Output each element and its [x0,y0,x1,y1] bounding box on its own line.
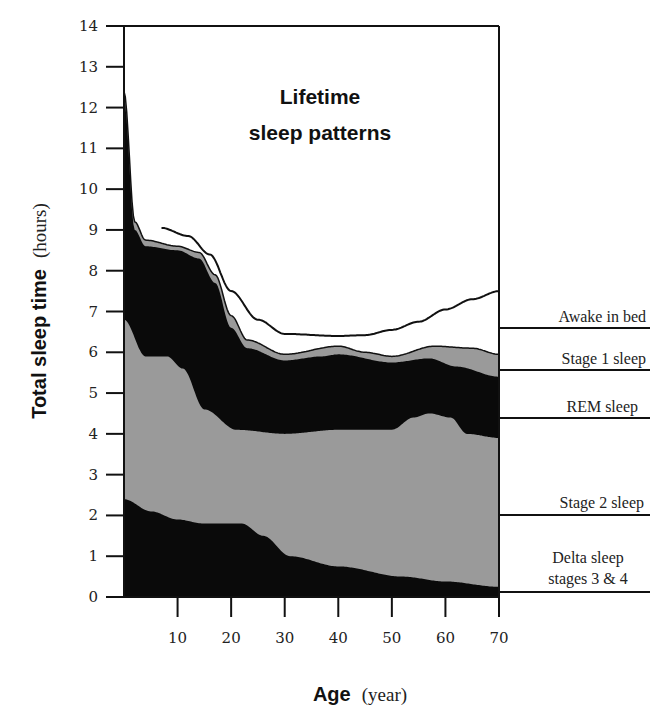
y-tick-label: 13 [79,58,98,76]
y-axis-title: Total sleep time (hours) [28,203,51,419]
y-tick-label: 2 [88,506,98,524]
label-delta-line1: Delta sleep [552,549,624,567]
y-tick-label: 12 [79,99,98,117]
y-tick-label: 11 [79,139,98,157]
x-tick-label: 10 [168,629,187,647]
x-tick-label: 30 [275,629,294,647]
x-axis-title: Age (year) [313,683,407,706]
x-tick-label: 60 [436,629,455,647]
sleep-chart: Lifetime sleep patterns 0123456789101112… [0,0,662,723]
y-tick-label: 4 [88,425,98,443]
chart-title-line2: sleep patterns [249,121,391,144]
y-tick-label: 0 [88,588,98,606]
y-tick-label: 10 [79,180,98,198]
y-tick-label: 1 [88,547,98,565]
y-tick-label: 7 [88,303,98,321]
y-axis-unit: (hours) [29,203,51,258]
x-tick-label: 20 [222,629,241,647]
y-tick-label: 9 [88,221,98,239]
plot-area [124,91,499,597]
y-tick-label: 14 [79,17,98,35]
y-axis-label: Total sleep time [28,269,50,419]
y-tick-label: 3 [88,466,98,484]
x-axis-label: Age [313,683,351,705]
chart-title-line1: Lifetime [280,85,361,108]
x-axis-unit: (year) [362,684,407,706]
x-tick-label: 70 [489,629,508,647]
y-tick-label: 5 [88,384,98,402]
label-stage-1: Stage 1 sleep [562,350,646,368]
label-awake-in-bed: Awake in bed [559,308,646,325]
x-tick-label: 40 [329,629,348,647]
series-legend: Awake in bed Stage 1 sleep REM sleep Sta… [500,308,650,592]
x-tick-label: 50 [382,629,401,647]
label-stage-2: Stage 2 sleep [560,494,644,512]
y-tick-label: 8 [88,262,98,280]
label-delta-line2: stages 3 & 4 [548,570,628,588]
y-tick-label: 6 [88,343,98,361]
label-rem: REM sleep [566,398,638,416]
